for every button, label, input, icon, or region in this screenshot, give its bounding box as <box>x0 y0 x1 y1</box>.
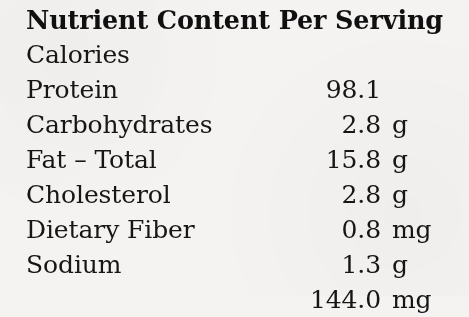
nutrient-name: Carbohydrates <box>26 107 213 142</box>
nutrient-amount: 98.1 <box>326 72 381 107</box>
nutrient-name: Protein <box>26 72 118 107</box>
nutrient-amount: 1.3 <box>342 247 381 282</box>
page-title: Nutrient Content Per Serving <box>0 4 469 37</box>
nutrient-unit: g <box>381 107 408 142</box>
nutrient-amount: 144.0 <box>310 282 381 317</box>
nutrient-unit: mg <box>381 212 432 247</box>
nutrient-name: Dietary Fiber <box>26 212 195 247</box>
nutrient-unit: g <box>381 247 408 282</box>
table-row: Protein 2.8 g <box>0 72 469 107</box>
nutrient-name: Cholesterol <box>26 177 171 212</box>
table-row: Calories 98.1 <box>0 37 469 72</box>
nutrient-amount: 15.8 <box>326 142 381 177</box>
nutrient-amount: 0.8 <box>342 212 381 247</box>
nutrient-unit: g <box>381 177 408 212</box>
nutrient-name: Fat – Total <box>26 142 157 177</box>
nutrient-amount: 2.8 <box>342 177 381 212</box>
nutrient-name: Sodium <box>26 247 121 282</box>
nutrition-table: Calories 98.1 Protein 2.8 g Carbohydrate… <box>0 37 469 282</box>
nutrient-name: Calories <box>26 37 130 72</box>
nutrient-amount: 2.8 <box>342 107 381 142</box>
nutrient-unit: mg <box>381 282 432 317</box>
nutrient-unit: g <box>381 142 408 177</box>
